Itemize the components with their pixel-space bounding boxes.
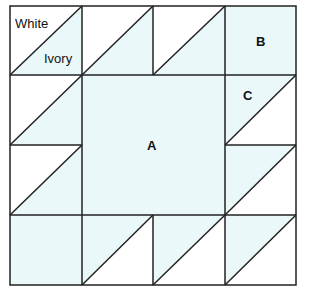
quilt-block-diagram: White Ivory A B C [0,0,318,294]
label-c: C [243,88,253,103]
label-white: White [15,16,48,31]
label-b: B [256,34,265,49]
label-ivory: Ivory [44,51,73,66]
label-a: A [147,138,157,153]
